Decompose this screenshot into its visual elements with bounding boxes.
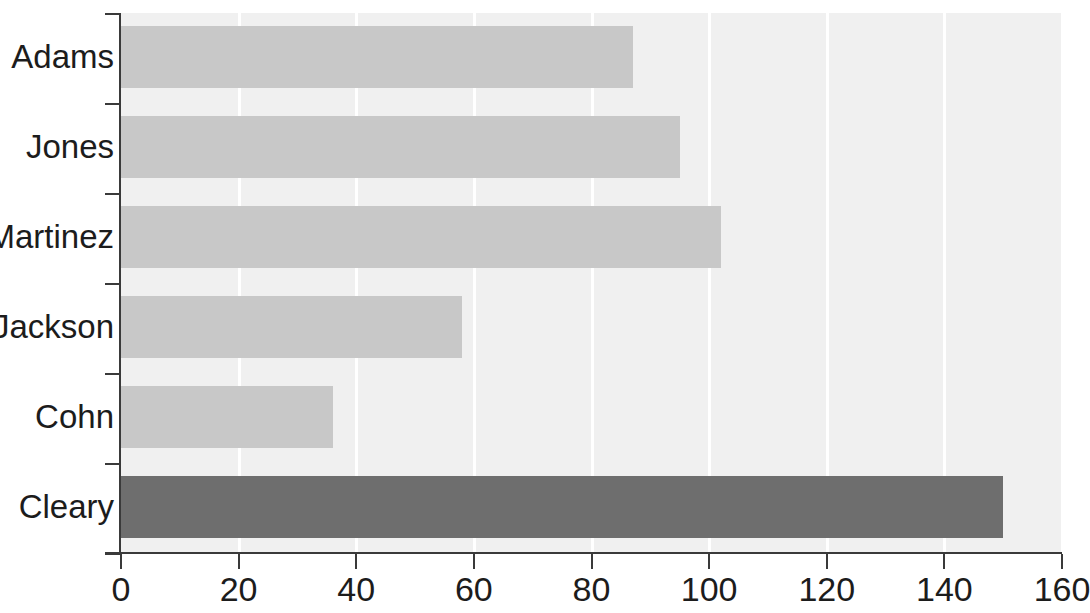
bar-jones[interactable] [121,116,680,178]
y-axis-label-jones: Jones [26,103,114,191]
bar-adams[interactable] [121,26,633,88]
bar-martinez[interactable] [121,206,721,268]
bar-jackson[interactable] [121,296,462,358]
x-axis-label-0: 0 [112,570,131,609]
y-axis-label-adams: Adams [11,13,114,101]
x-axis-label-100: 100 [681,570,738,609]
x-axis-tick-80 [591,554,593,569]
x-axis-tick-160 [1061,554,1063,569]
x-axis-line [105,552,1062,554]
y-axis-label-martinez: Martinez [0,193,114,281]
x-axis-label-140: 140 [916,570,973,609]
x-axis-label-20: 20 [220,570,258,609]
bar-band [121,13,1062,101]
bar-cleary[interactable] [121,476,1003,538]
x-axis-label-160: 160 [1034,570,1090,609]
x-axis-tick-100 [708,554,710,569]
bar-band [121,283,1062,371]
x-axis-tick-60 [473,554,475,569]
bar-band [121,463,1062,551]
x-axis-tick-140 [943,554,945,569]
bar-band [121,103,1062,191]
x-axis-tick-20 [238,554,240,569]
x-axis-tick-40 [355,554,357,569]
y-axis-tick [105,553,120,555]
y-axis-label-cohn: Cohn [35,373,114,461]
x-axis-label-60: 60 [455,570,493,609]
bar-band [121,373,1062,461]
plot-area [121,13,1062,553]
y-axis-label-cleary: Cleary [19,463,114,551]
bar-band [121,193,1062,281]
bar-cohn[interactable] [121,386,333,448]
x-axis-tick-120 [826,554,828,569]
x-axis-tick-0 [120,554,122,569]
x-axis-label-80: 80 [573,570,611,609]
y-axis-label-jackson: Jackson [0,283,114,371]
x-axis-label-120: 120 [798,570,855,609]
x-axis-label-40: 40 [337,570,375,609]
